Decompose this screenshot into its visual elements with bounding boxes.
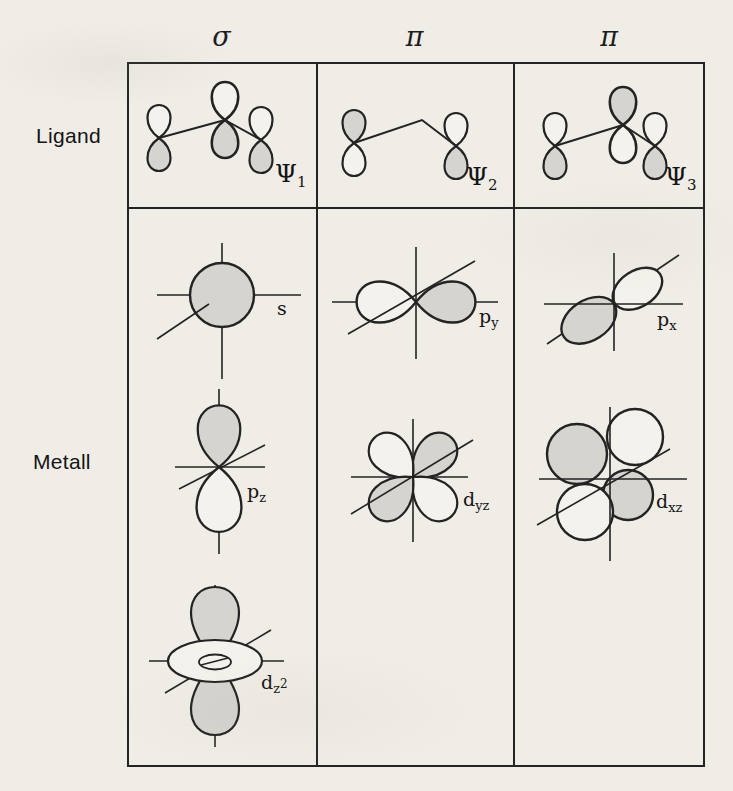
ligand-row-label: Ligand <box>36 124 101 148</box>
ligand-cell-psi2: Ψ2 <box>318 64 515 209</box>
dz2-orbital <box>149 585 284 747</box>
dyz-orbital <box>351 419 473 542</box>
metal-cell-sigma: s pz dz2 <box>129 209 318 765</box>
metal-cell-pi-2: px dxz <box>515 209 703 765</box>
bond-lines <box>159 120 261 140</box>
dxz-orbital-label: dxz <box>656 490 682 515</box>
bond-lines <box>555 125 655 146</box>
dxz-orbital <box>537 407 687 561</box>
psi2-label: Ψ2 <box>466 162 497 194</box>
column-header-pi-2: π <box>513 22 705 52</box>
py-orbital-label: py <box>479 305 499 330</box>
bond-lines <box>354 120 456 146</box>
metal-cell-pi-1: py dyz <box>318 209 515 765</box>
ligand-cell-psi3: Ψ3 <box>515 64 703 209</box>
dz2-orbital-label: dz2 <box>261 671 288 696</box>
metal-sigma-orbitals <box>129 209 318 765</box>
pz-orbital-label: pz <box>247 480 266 505</box>
metal-row-label: Metall <box>33 450 91 474</box>
s-orbital-label: s <box>277 297 287 319</box>
psi1-label: Ψ1 <box>275 159 306 191</box>
psi3-label: Ψ3 <box>665 162 696 194</box>
py-orbital <box>332 247 498 359</box>
orbital-table: Ψ1 Ψ2 <box>127 62 705 767</box>
metal-pi2-orbitals <box>515 209 703 765</box>
ligand-cell-psi1: Ψ1 <box>129 64 318 209</box>
column-header-pi-1: π <box>316 22 513 52</box>
px-orbital <box>544 253 683 353</box>
pz-orbital <box>175 389 265 554</box>
metal-pi1-orbitals <box>318 209 515 765</box>
px-orbital-label: px <box>657 308 677 333</box>
scanned-textbook-figure: σ π π Ligand Metall <box>0 0 733 791</box>
dyz-orbital-label: dyz <box>463 488 489 513</box>
column-header-sigma: σ <box>127 22 316 52</box>
